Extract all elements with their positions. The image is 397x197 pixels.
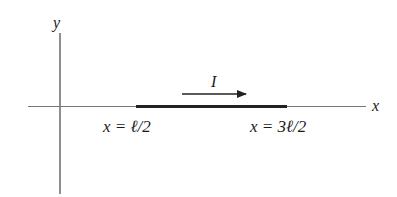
x-axis-label: x bbox=[371, 97, 379, 114]
start-label: x = ℓ/2 bbox=[102, 117, 151, 136]
y-axis-label: y bbox=[51, 14, 61, 32]
diagram-canvas: y x I x = ℓ/2 x = 3ℓ/2 bbox=[0, 0, 397, 197]
current-label: I bbox=[210, 73, 217, 90]
end-label: x = 3ℓ/2 bbox=[249, 117, 307, 136]
